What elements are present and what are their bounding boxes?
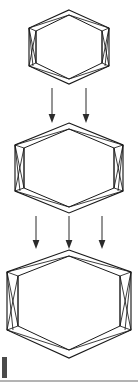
transition-arrow bbox=[99, 216, 106, 249]
arrow-group-2 bbox=[33, 216, 106, 249]
stage-2-hexagon bbox=[15, 123, 123, 213]
page-corner-mark bbox=[2, 357, 7, 378]
transition-arrow bbox=[66, 216, 73, 249]
hexagon-sequence-diagram bbox=[0, 0, 138, 390]
stage-3-inner-hexagon bbox=[18, 256, 120, 350]
stage-1-outer-hexagon bbox=[29, 10, 109, 84]
arrow-group-1 bbox=[49, 88, 90, 123]
transition-arrow bbox=[33, 216, 40, 249]
stage-1-inner-hexagon bbox=[36, 15, 102, 79]
transition-arrow bbox=[83, 88, 90, 123]
transition-arrow bbox=[49, 88, 56, 123]
diagram-root: Hexagonal cage transformation sequence bbox=[0, 0, 138, 390]
stage-3-outer-hexagon bbox=[7, 250, 131, 358]
stage-1-hexagon bbox=[29, 10, 109, 84]
stage-2-inner-hexagon bbox=[24, 129, 114, 207]
stage-3-hexagon bbox=[7, 250, 131, 358]
stage-2-outer-hexagon bbox=[15, 123, 123, 213]
